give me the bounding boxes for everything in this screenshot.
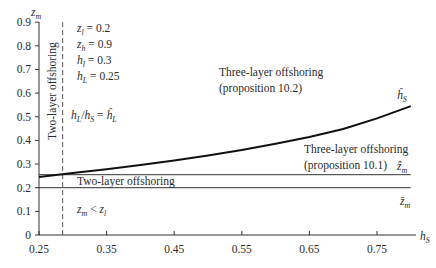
three-layer-10-2-label: Three-layer offshoring xyxy=(219,66,323,79)
zhat-m-label: ẑm xyxy=(396,160,407,175)
x-axis-title: hS xyxy=(420,230,430,245)
x-tick-label: 0.45 xyxy=(164,243,184,255)
two-layer-vertical-label: Two-layer offshoring xyxy=(46,42,59,140)
y-tick-label: 0.6 xyxy=(17,87,32,99)
y-tick-label: 0.9 xyxy=(17,16,32,28)
y-tick-label: 0.7 xyxy=(17,63,32,75)
parameter-item: zl = 0.2 xyxy=(76,22,111,37)
ratio-label: hL/hS = ĥL xyxy=(71,108,117,124)
parameter-item: hL = 0.25 xyxy=(77,70,120,85)
three-layer-10-2-prop: (proposition 10.2) xyxy=(219,82,302,95)
zm-less-zl-label: zm < zl xyxy=(76,203,107,218)
parameter-list: zl = 0.2zh = 0.9hl = 0.3hL = 0.25 xyxy=(76,22,120,85)
y-ticks: 00.10.20.30.40.50.60.70.80.9 xyxy=(17,16,39,241)
three-layer-10-1-label: Three-layer offshoring xyxy=(304,143,408,156)
zbar-m-label: z̄m xyxy=(399,195,410,210)
y-tick-label: 0 xyxy=(25,229,31,241)
x-tick-label: 0.75 xyxy=(367,243,387,255)
parameter-item: hl = 0.3 xyxy=(77,54,112,69)
y-tick-label: 0.1 xyxy=(17,205,32,217)
y-axis-title: zm xyxy=(30,6,41,21)
x-tick-label: 0.25 xyxy=(29,243,49,255)
y-tick-label: 0.8 xyxy=(17,40,32,52)
two-layer-mid-label: Two-layer offshoring xyxy=(77,175,175,188)
hhat-s-label: ĥS xyxy=(397,88,407,104)
three-layer-10-1-prop: (proposition 10.1) xyxy=(304,159,387,172)
y-tick-label: 0.2 xyxy=(17,182,32,194)
y-tick-label: 0.4 xyxy=(17,134,32,146)
x-tick-label: 0.55 xyxy=(232,243,252,255)
parameter-item: zh = 0.9 xyxy=(76,38,112,53)
y-tick-label: 0.3 xyxy=(17,158,32,170)
y-tick-label: 0.5 xyxy=(17,111,32,123)
x-tick-label: 0.65 xyxy=(299,243,319,255)
x-tick-label: 0.35 xyxy=(97,243,117,255)
chart-canvas: 00.10.20.30.40.50.60.70.80.9 0.250.350.4… xyxy=(0,0,436,268)
